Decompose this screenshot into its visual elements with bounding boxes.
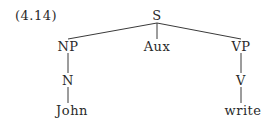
edge-s-vp — [157, 23, 241, 39]
node-s: S — [152, 9, 161, 22]
leaf-john: John — [56, 104, 88, 117]
node-n: N — [62, 74, 74, 87]
syntax-tree-diagram: (4.14) S NP Aux VP N V John write — [0, 0, 275, 123]
example-number: (4.14) — [15, 9, 57, 22]
node-v: V — [236, 74, 246, 87]
leaf-write: write — [225, 104, 262, 117]
node-np: NP — [57, 40, 78, 53]
node-vp: VP — [231, 40, 250, 53]
edge-s-np — [68, 23, 157, 39]
node-aux: Aux — [144, 40, 171, 53]
